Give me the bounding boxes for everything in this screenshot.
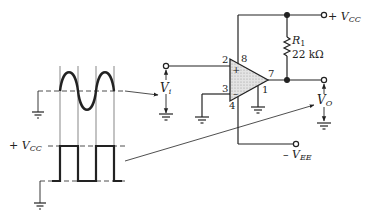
waveform-sync-lines <box>60 66 114 181</box>
vee-label: – VEE <box>283 148 312 162</box>
inverting-input-ground-wire <box>202 94 230 117</box>
output-square-wave <box>52 146 122 181</box>
vee-wire <box>238 97 293 144</box>
output-terminal <box>321 77 326 82</box>
input-terminal <box>163 63 168 68</box>
pin-7-label: 7 <box>268 68 274 79</box>
ground-icon <box>34 203 46 209</box>
sine-to-vi-arrow <box>125 91 158 95</box>
ground-icon <box>195 117 209 123</box>
pin-2-label: 2 <box>222 54 228 65</box>
minus-input-mark: – <box>233 88 238 99</box>
plus-input-mark: + <box>232 64 240 75</box>
ground-icon <box>317 123 331 129</box>
vcc-label: + VCC <box>328 10 361 24</box>
ground-icon <box>32 112 44 118</box>
ground-icon <box>159 114 173 120</box>
vcc-terminal <box>321 12 326 17</box>
resistor-r1 <box>284 15 290 80</box>
pin-4-label: 4 <box>229 100 235 111</box>
resistor-name-label: R1 <box>291 34 305 48</box>
square-high-level-label: + VCC <box>9 139 42 153</box>
circuit-diagram: + VCC R1 22 kΩ 2 8 3 4 7 1 + – Vi VO – V… <box>0 0 365 214</box>
pin-1-label: 1 <box>262 84 268 95</box>
ground-icon <box>251 107 265 113</box>
pin-8-label: 8 <box>241 53 247 64</box>
vo-label: VO <box>317 93 333 108</box>
pin-3-label: 3 <box>222 83 228 94</box>
output-junction-dot <box>285 78 290 83</box>
vee-terminal <box>293 141 298 146</box>
resistor-value-label: 22 kΩ <box>292 48 324 60</box>
vi-label: Vi <box>160 81 172 96</box>
